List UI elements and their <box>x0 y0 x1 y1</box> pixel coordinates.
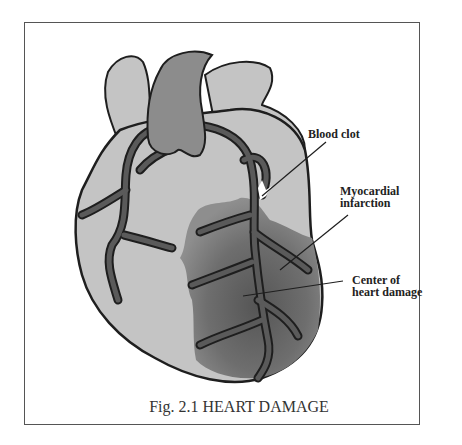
label-blood-clot: Blood clot <box>308 128 360 140</box>
label-center-of-damage: Center of heart damage <box>352 274 422 298</box>
label-myocardial-infarction: Myocardial infarction <box>340 185 399 209</box>
heart-illustration <box>0 0 462 445</box>
aorta <box>148 52 213 156</box>
figure-caption: Fig. 2.1 HEART DAMAGE <box>0 398 462 416</box>
caption-text: Fig. 2.1 HEART DAMAGE <box>149 398 329 416</box>
label-myocardial-line2: infarction <box>340 197 399 209</box>
label-center-line2: heart damage <box>352 286 422 298</box>
